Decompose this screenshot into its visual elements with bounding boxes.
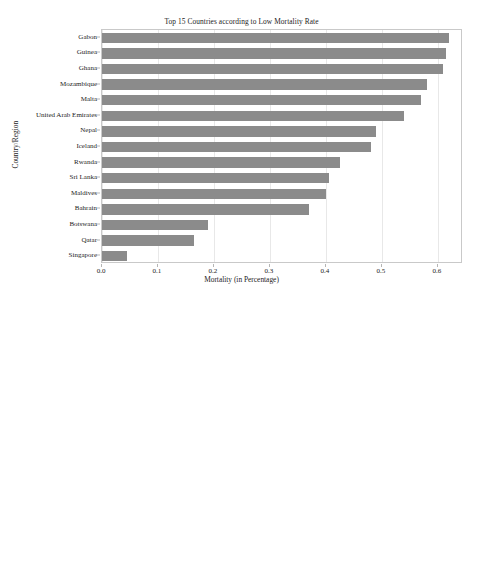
chart-recovery: Top 15 Countries according to Low Recove… bbox=[0, 290, 483, 571]
y-tick-mark bbox=[97, 224, 100, 225]
bar[interactable] bbox=[102, 142, 371, 153]
y-tick-mark bbox=[97, 83, 100, 84]
x-tick-label: 0.0 bbox=[97, 268, 106, 275]
y-tick-mark bbox=[97, 177, 100, 178]
y-tick-label: Maldives bbox=[71, 189, 97, 196]
y-tick-label: Nepal bbox=[80, 127, 97, 134]
bar[interactable] bbox=[102, 64, 443, 75]
chart-title-mortality: Top 15 Countries according to Low Mortal… bbox=[0, 17, 483, 26]
bar[interactable] bbox=[102, 157, 340, 168]
y-tick-label: Rwanda bbox=[74, 158, 97, 165]
y-tick-mark bbox=[97, 146, 100, 147]
bar-row[interactable] bbox=[102, 189, 461, 200]
y-tick-label: United Arab Emirates bbox=[36, 111, 97, 118]
y-tick-mark bbox=[97, 52, 100, 53]
y-tick-mark bbox=[97, 255, 100, 256]
bar-row[interactable] bbox=[102, 95, 461, 106]
bar-row[interactable] bbox=[102, 33, 461, 44]
y-tick-label: Botswana bbox=[69, 221, 97, 228]
bar[interactable] bbox=[102, 251, 127, 262]
bar[interactable] bbox=[102, 173, 329, 184]
bar-row[interactable] bbox=[102, 142, 461, 153]
y-tick-mark bbox=[97, 36, 100, 37]
y-tick-mark bbox=[97, 99, 100, 100]
y-tick-mark bbox=[97, 68, 100, 69]
bar-row[interactable] bbox=[102, 235, 461, 246]
y-tick-label: Mozambique bbox=[60, 80, 97, 87]
bar[interactable] bbox=[102, 204, 309, 215]
bar-row[interactable] bbox=[102, 157, 461, 168]
y-tick-label: Ghana bbox=[79, 65, 97, 72]
x-tick-label: 0.1 bbox=[153, 268, 162, 275]
y-tick-mark bbox=[97, 239, 100, 240]
x-axis-label-mortality: Mortality (in Percentage) bbox=[0, 275, 483, 284]
y-tick-label: Qatar bbox=[81, 236, 97, 243]
bar[interactable] bbox=[102, 48, 446, 59]
y-tick-label: Sri Lanka bbox=[70, 174, 97, 181]
bar-row[interactable] bbox=[102, 126, 461, 137]
bar[interactable] bbox=[102, 111, 404, 122]
y-axis-label-mortality: Country/Region bbox=[12, 115, 19, 175]
plot-area-mortality bbox=[101, 29, 462, 263]
y-tick-mark bbox=[97, 161, 100, 162]
bar[interactable] bbox=[102, 220, 208, 231]
bar[interactable] bbox=[102, 126, 376, 137]
y-tick-label: Malta bbox=[81, 96, 97, 103]
bar-row[interactable] bbox=[102, 204, 461, 215]
bar[interactable] bbox=[102, 79, 427, 90]
bar[interactable] bbox=[102, 95, 421, 106]
y-tick-label: Bahrain bbox=[75, 205, 97, 212]
y-tick-mark bbox=[97, 114, 100, 115]
bar-row[interactable] bbox=[102, 111, 461, 122]
x-tick-label: 0.5 bbox=[376, 268, 385, 275]
x-tick-label: 0.6 bbox=[432, 268, 441, 275]
y-tick-label: Guinea bbox=[77, 49, 97, 56]
bar-row[interactable] bbox=[102, 220, 461, 231]
bar-row[interactable] bbox=[102, 79, 461, 90]
y-tick-label: Iceland bbox=[76, 143, 97, 150]
bar-row[interactable] bbox=[102, 64, 461, 75]
y-tick-label: Gabon bbox=[78, 33, 97, 40]
bar[interactable] bbox=[102, 235, 194, 246]
bar[interactable] bbox=[102, 189, 326, 200]
bar-row[interactable] bbox=[102, 173, 461, 184]
x-tick-label: 0.2 bbox=[209, 268, 218, 275]
x-tick-label: 0.4 bbox=[321, 268, 330, 275]
y-tick-mark bbox=[97, 208, 100, 209]
x-tick-label: 0.3 bbox=[265, 268, 274, 275]
y-tick-label: Singapore bbox=[69, 252, 97, 259]
bar-row[interactable] bbox=[102, 48, 461, 59]
y-tick-mark bbox=[97, 192, 100, 193]
bar-row[interactable] bbox=[102, 251, 461, 262]
y-tick-mark bbox=[97, 130, 100, 131]
bar[interactable] bbox=[102, 33, 449, 44]
chart-mortality: Top 15 Countries according to Low Mortal… bbox=[0, 0, 483, 290]
